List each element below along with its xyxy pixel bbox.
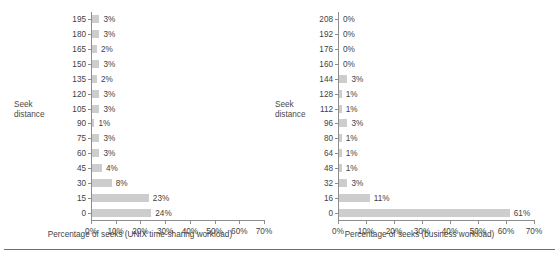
y-tick-label: 180 xyxy=(72,30,86,39)
bar-row: 753% xyxy=(91,131,265,146)
bar-value-label: 8% xyxy=(116,178,128,187)
bar-value-label: 3% xyxy=(351,119,363,128)
bar xyxy=(92,15,99,23)
bar-value-label: 3% xyxy=(103,59,115,68)
y-tick-mark xyxy=(88,183,91,184)
y-tick-mark xyxy=(88,94,91,95)
bar-value-label: 3% xyxy=(103,104,115,113)
x-tick-mark xyxy=(165,221,166,224)
y-tick-label: 32 xyxy=(324,178,333,187)
y-tick-label: 90 xyxy=(77,119,86,128)
plot-area-business: 2080%1920%1760%1600%1443%1281%1121%963%8… xyxy=(338,12,535,221)
y-tick-mark xyxy=(88,49,91,50)
y-axis-title-business: Seek distance xyxy=(275,100,306,120)
bar-value-label: 23% xyxy=(153,193,169,202)
bar xyxy=(339,149,342,157)
bar xyxy=(92,30,99,38)
y-tick-label: 165 xyxy=(72,45,86,54)
x-tick-mark xyxy=(394,221,395,224)
bar xyxy=(92,149,99,157)
y-tick-label: 0 xyxy=(328,208,333,217)
bar xyxy=(92,119,94,127)
y-tick-mark xyxy=(335,138,338,139)
y-tick-label: 135 xyxy=(72,74,86,83)
y-tick-mark xyxy=(335,64,338,65)
y-tick-label: 80 xyxy=(324,134,333,143)
bar xyxy=(339,194,370,202)
y-tick-mark xyxy=(88,198,91,199)
x-tick-mark xyxy=(534,221,535,224)
y-tick-label: 30 xyxy=(77,178,86,187)
bar xyxy=(339,105,342,113)
bar-value-label: 0% xyxy=(343,30,355,39)
x-tick-mark xyxy=(338,221,339,224)
chart-panel-unix: Seek distance 1953%1803%1652%1503%1352%1… xyxy=(0,0,280,257)
y-tick-mark xyxy=(88,64,91,65)
bar xyxy=(92,209,151,217)
bar-row: 963% xyxy=(338,116,535,131)
y-tick-mark xyxy=(335,19,338,20)
bar-value-label: 0% xyxy=(343,59,355,68)
y-tick-mark xyxy=(335,168,338,169)
bar-row: 308% xyxy=(91,175,265,190)
y-tick-mark xyxy=(88,19,91,20)
y-tick-mark xyxy=(335,109,338,110)
y-tick-mark xyxy=(335,123,338,124)
bar-value-label: 3% xyxy=(103,134,115,143)
bar xyxy=(339,75,347,83)
bar-value-label: 3% xyxy=(103,149,115,158)
bar-value-label: 4% xyxy=(106,163,118,172)
x-axis-label-business: Percentage of seeks (business workload) xyxy=(280,230,559,239)
y-tick-label: 120 xyxy=(72,89,86,98)
x-tick-mark xyxy=(478,221,479,224)
bar-value-label: 3% xyxy=(351,178,363,187)
y-tick-mark xyxy=(88,168,91,169)
bar-row: 323% xyxy=(338,175,535,190)
bar xyxy=(92,105,99,113)
y-tick-mark xyxy=(88,213,91,214)
x-tick-mark xyxy=(215,221,216,224)
x-tick-mark xyxy=(116,221,117,224)
y-tick-label: 128 xyxy=(319,89,333,98)
bar xyxy=(92,164,102,172)
bar-row: 1443% xyxy=(338,71,535,86)
y-tick-label: 96 xyxy=(324,119,333,128)
bar-rows-business: 2080%1920%1760%1600%1443%1281%1121%963%8… xyxy=(338,12,535,221)
bar xyxy=(339,209,510,217)
bar-row: 2080% xyxy=(338,12,535,27)
y-tick-mark xyxy=(335,213,338,214)
bar-row: 1203% xyxy=(91,86,265,101)
bar-value-label: 2% xyxy=(101,74,113,83)
x-axis-label-unix: Percentage of seeks (UNIX time-sharing w… xyxy=(0,230,280,239)
y-tick-label: 16 xyxy=(324,193,333,202)
bar-value-label: 3% xyxy=(103,15,115,24)
y-tick-label: 60 xyxy=(77,149,86,158)
bar-row: 603% xyxy=(91,146,265,161)
bar-value-label: 0% xyxy=(343,15,355,24)
bar-value-label: 0% xyxy=(343,45,355,54)
bar xyxy=(92,45,97,53)
y-tick-mark xyxy=(88,138,91,139)
y-tick-mark xyxy=(88,153,91,154)
bar-row: 024% xyxy=(91,205,265,220)
bar-row: 1352% xyxy=(91,71,265,86)
bar-row: 1281% xyxy=(338,86,535,101)
y-tick-mark xyxy=(88,34,91,35)
bar-row: 1600% xyxy=(338,57,535,72)
y-tick-label: 75 xyxy=(77,134,86,143)
y-tick-mark xyxy=(88,79,91,80)
bar-value-label: 24% xyxy=(155,208,171,217)
bar-row: 454% xyxy=(91,161,265,176)
footer-rule xyxy=(4,249,555,250)
bar-value-label: 1% xyxy=(346,89,358,98)
bar-row: 641% xyxy=(338,146,535,161)
bar-value-label: 1% xyxy=(98,119,110,128)
bar xyxy=(339,134,342,142)
bar-row: 1523% xyxy=(91,190,265,205)
y-tick-label: 176 xyxy=(319,45,333,54)
bar-value-label: 2% xyxy=(101,45,113,54)
bar xyxy=(339,90,342,98)
x-tick-mark xyxy=(264,221,265,224)
bar-row: 1803% xyxy=(91,27,265,42)
y-tick-mark xyxy=(88,109,91,110)
